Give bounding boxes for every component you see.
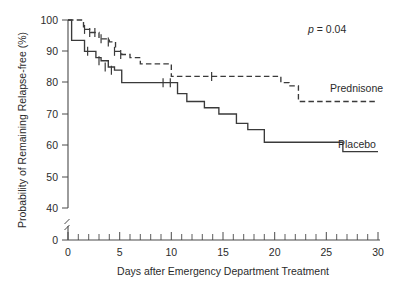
x-ticklabel-25: 25 xyxy=(320,246,332,258)
y-ticklabel-90: 90 xyxy=(46,45,58,57)
y-ticklabel-40: 40 xyxy=(46,202,58,214)
y-ticklabel-60: 60 xyxy=(46,139,58,151)
x-axis-title: Days after Emergency Department Treatmen… xyxy=(117,265,329,277)
y-axis-title: Probability of Remaining Relapse-free (%… xyxy=(16,32,28,228)
chart-figure: 100 90 80 70 60 50 40 0 Probability of R… xyxy=(0,0,401,292)
y-ticklabel-50: 50 xyxy=(46,171,58,183)
y-ticklabel-0: 0 xyxy=(52,234,58,246)
series-label-placebo: Placebo xyxy=(338,138,376,150)
p-value-rest: = 0.04 xyxy=(314,23,347,35)
km-survival-chart: 100 90 80 70 60 50 40 0 Probability of R… xyxy=(0,0,401,292)
x-ticklabel-15: 15 xyxy=(217,246,229,258)
p-value-annotation: p = 0.04 xyxy=(307,23,346,35)
x-ticklabel-20: 20 xyxy=(269,246,281,258)
series-label-prednisone: Prednisone xyxy=(330,82,383,94)
y-ticklabel-100: 100 xyxy=(40,14,58,26)
x-ticklabel-0: 0 xyxy=(65,246,71,258)
x-ticklabel-5: 5 xyxy=(117,246,123,258)
x-ticklabel-10: 10 xyxy=(165,246,177,258)
y-ticklabel-70: 70 xyxy=(46,108,58,120)
x-ticklabel-30: 30 xyxy=(372,246,384,258)
y-ticklabel-80: 80 xyxy=(46,76,58,88)
